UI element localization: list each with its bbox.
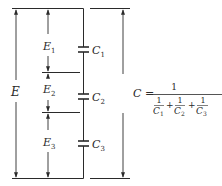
plus-1: + <box>166 100 174 110</box>
term1-num: 1 <box>156 96 161 105</box>
series-capacitance-formula: C = 1 1 C1 + 1 C2 + 1 C3 <box>133 82 222 117</box>
capacitor-c3-icon <box>78 141 89 146</box>
label-e2: E2 <box>42 83 56 98</box>
label-e3: E3 <box>42 136 56 151</box>
label-e1: E1 <box>42 40 56 55</box>
term3-num: 1 <box>200 96 205 105</box>
label-c1: C1 <box>92 44 105 59</box>
label-c3: C3 <box>92 138 105 153</box>
capacitor-c1-icon <box>78 47 89 52</box>
plus-2: + <box>188 100 196 110</box>
label-c2: C2 <box>92 91 105 106</box>
capacitor-c2-icon <box>78 94 89 99</box>
term2-den: C2 <box>174 106 185 117</box>
formula-numerator: 1 <box>171 82 177 92</box>
label-e: E <box>10 85 20 99</box>
term1-den: C1 <box>153 106 164 117</box>
formula-lhs: C = <box>133 87 154 100</box>
term3-den: C3 <box>196 106 207 117</box>
series-capacitor-diagram: E E1 E2 E3 C1 C2 C3 C = 1 1 C1 + 1 C2 + … <box>0 0 222 186</box>
term2-num: 1 <box>177 96 182 105</box>
